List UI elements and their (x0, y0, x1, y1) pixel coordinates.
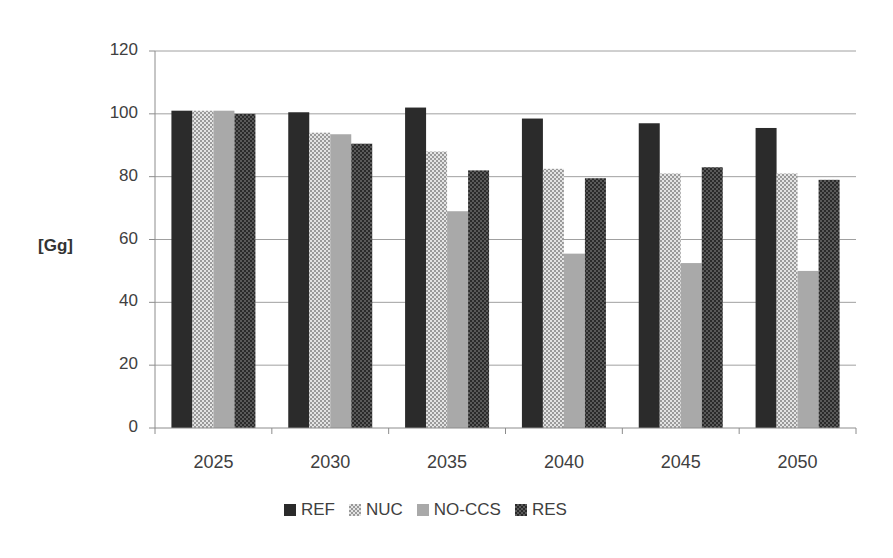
bar-no-ccs-2040 (564, 254, 585, 428)
bar-ref-2040 (522, 119, 543, 428)
legend-label: NO-CCS (434, 500, 501, 520)
legend-label: REF (301, 500, 335, 520)
bar-ref-2050 (756, 128, 777, 428)
y-tick-label: 80 (119, 166, 138, 186)
legend-item-no-ccs: NO-CCS (417, 500, 501, 520)
y-tick-label: 0 (129, 417, 138, 437)
bar-res-2040 (585, 178, 606, 428)
y-tick-label: 60 (119, 229, 138, 249)
bar-res-2025 (234, 114, 255, 428)
legend-swatch-icon (515, 504, 527, 516)
bar-no-ccs-2045 (681, 263, 702, 428)
legend-label: NUC (366, 500, 403, 520)
x-tick-label: 2040 (524, 452, 604, 473)
bar-nuc-2040 (543, 169, 564, 428)
bar-no-ccs-2025 (213, 111, 234, 428)
x-tick-label: 2025 (173, 452, 253, 473)
bar-nuc-2050 (777, 174, 798, 428)
bar-ref-2035 (405, 108, 426, 428)
legend-item-nuc: NUC (349, 500, 403, 520)
legend-swatch-icon (417, 504, 429, 516)
y-tick-label: 100 (110, 103, 138, 123)
bar-ref-2045 (639, 123, 660, 428)
bar-ref-2030 (288, 112, 309, 428)
bar-no-ccs-2030 (330, 134, 351, 428)
bar-ref-2025 (171, 111, 192, 428)
bar-nuc-2025 (192, 111, 213, 428)
bar-res-2050 (819, 180, 840, 428)
y-axis-title: [Gg] (38, 236, 73, 256)
legend-swatch-icon (284, 504, 296, 516)
legend: REFNUCNO-CCSRES (284, 500, 581, 520)
bar-nuc-2030 (309, 133, 330, 428)
legend-swatch-icon (349, 504, 361, 516)
x-tick-label: 2035 (407, 452, 487, 473)
bar-nuc-2035 (426, 152, 447, 428)
bars (171, 108, 839, 428)
x-tick-label: 2045 (641, 452, 721, 473)
legend-item-ref: REF (284, 500, 335, 520)
bar-chart (0, 0, 893, 558)
y-tick-label: 40 (119, 291, 138, 311)
bar-res-2030 (351, 144, 372, 428)
y-tick-label: 120 (110, 40, 138, 60)
bar-nuc-2045 (660, 174, 681, 428)
y-tick-label: 20 (119, 354, 138, 374)
x-tick-label: 2030 (290, 452, 370, 473)
axes (155, 51, 856, 434)
bar-res-2045 (702, 167, 723, 428)
bar-res-2035 (468, 170, 489, 428)
x-tick-label: 2050 (758, 452, 838, 473)
legend-label: RES (532, 500, 567, 520)
bar-no-ccs-2050 (798, 271, 819, 428)
legend-item-res: RES (515, 500, 567, 520)
bar-no-ccs-2035 (447, 211, 468, 428)
